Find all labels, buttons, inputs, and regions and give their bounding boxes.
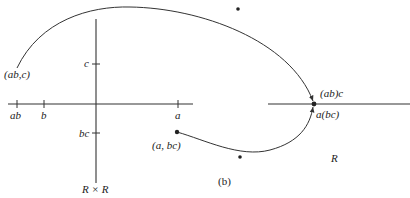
label-tick-ab: ab (10, 110, 21, 121)
label-tick-a: a (175, 110, 181, 121)
label-tick-bc: bc (79, 128, 89, 139)
point-image (312, 102, 317, 107)
map-curve-a-bc (177, 107, 313, 152)
label-real-line: R (331, 153, 338, 164)
label-tick-b: b (41, 110, 47, 121)
label-image-a-bc: a(bc) (316, 109, 339, 120)
point-a-bc (175, 130, 179, 134)
label-tick-c: c (84, 58, 89, 69)
figure-caption: (b) (218, 176, 231, 187)
diagram-canvas (0, 0, 410, 198)
dot-bottom (238, 155, 242, 159)
label-product-space: R × R (82, 184, 108, 195)
map-curve-ab-c (17, 7, 313, 101)
label-image-ab-c: (ab)c (320, 88, 343, 99)
dot-top (236, 7, 240, 11)
label-point-a-bc: (a, bc) (152, 140, 181, 151)
label-point-ab-c: (ab,c) (4, 69, 30, 80)
